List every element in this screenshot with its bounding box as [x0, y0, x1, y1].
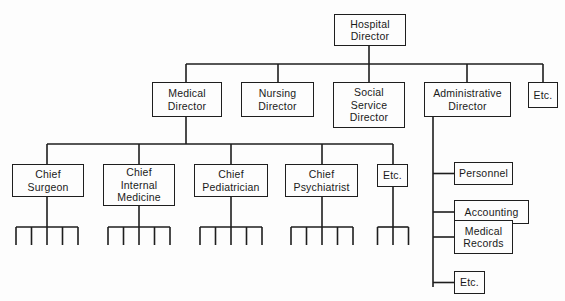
- etc-top-box: Etc.: [528, 82, 558, 108]
- box-label-line: Chief: [126, 166, 152, 179]
- social-service-director-box: SocialServiceDirector: [333, 82, 405, 128]
- box-label-line: Internal: [121, 179, 158, 192]
- box-label-line: Etc.: [534, 89, 553, 102]
- etc-admin-box: Etc.: [454, 271, 485, 294]
- chief-psychiatrist-box: ChiefPsychiatrist: [285, 164, 358, 197]
- box-label-line: Accounting: [465, 206, 519, 219]
- medical-records-box: MedicalRecords: [454, 220, 513, 254]
- box-label-line: Nursing: [259, 87, 297, 100]
- box-label-line: Administrative: [433, 87, 502, 100]
- box-label-line: Director: [258, 100, 296, 113]
- box-label-line: Social: [354, 86, 384, 99]
- box-label-line: Psychiatrist: [293, 181, 349, 194]
- box-label-line: Surgeon: [27, 181, 68, 194]
- chief-internal-medicine-box: ChiefInternalMedicine: [103, 164, 175, 206]
- hospital-director-box: HospitalDirector: [334, 14, 406, 46]
- box-label-line: Hospital: [350, 18, 390, 31]
- etc-chief-box: Etc.: [377, 164, 408, 187]
- box-label-line: Etc.: [460, 276, 479, 289]
- personnel-box: Personnel: [454, 162, 513, 185]
- nursing-director-box: NursingDirector: [241, 82, 314, 117]
- box-label-line: Chief: [35, 168, 61, 181]
- box-label-line: Chief: [218, 168, 244, 181]
- administrative-director-box: AdministrativeDirector: [424, 82, 511, 117]
- box-label-line: Medicine: [117, 191, 161, 204]
- box-label-line: Medical: [465, 225, 503, 238]
- box-label-line: Director: [168, 100, 206, 113]
- box-label-line: Personnel: [459, 167, 508, 180]
- box-label-line: Chief: [309, 168, 335, 181]
- box-label-line: Etc.: [383, 169, 402, 182]
- chief-surgeon-box: ChiefSurgeon: [12, 164, 84, 197]
- box-label-line: Director: [350, 111, 388, 124]
- box-label-line: Pediatrician: [202, 181, 259, 194]
- box-label-line: Service: [351, 99, 387, 112]
- medical-director-box: MedicalDirector: [152, 82, 222, 117]
- box-label-line: Medical: [168, 87, 206, 100]
- box-label-line: Director: [351, 30, 389, 43]
- box-label-line: Director: [448, 100, 486, 113]
- org-chart-connectors: [0, 0, 565, 301]
- box-label-line: Records: [463, 237, 504, 250]
- chief-pediatrician-box: ChiefPediatrician: [194, 164, 268, 197]
